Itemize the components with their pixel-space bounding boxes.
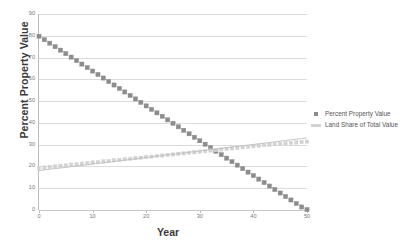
y-axis-tick-label: 70 bbox=[29, 55, 35, 61]
y-axis-tick-label: 20 bbox=[29, 164, 35, 170]
y-axis-tick-label: 50 bbox=[29, 98, 35, 104]
y-axis-tick-label: 60 bbox=[29, 77, 35, 83]
chart-figure: Percent Property Value Year 010203040506… bbox=[0, 0, 415, 246]
chart-legend: Percent Property ValueLand Share of Tota… bbox=[311, 110, 415, 132]
x-axis-tick-mark bbox=[93, 210, 94, 213]
x-axis-title: Year bbox=[30, 226, 306, 238]
legend-item[interactable]: Percent Property Value bbox=[311, 110, 415, 118]
y-axis-tick-label: 30 bbox=[29, 142, 35, 148]
x-axis-tick-mark bbox=[253, 210, 254, 213]
gridline bbox=[39, 210, 307, 211]
square-marker-icon bbox=[311, 110, 321, 118]
x-axis-tick-mark bbox=[39, 210, 40, 213]
legend-item[interactable]: Land Share of Total Value bbox=[311, 121, 415, 129]
x-axis-tick-mark bbox=[146, 210, 147, 213]
series-1 bbox=[37, 140, 308, 170]
x-axis-tick-label: 30 bbox=[197, 214, 203, 220]
y-axis-tick-label: 90 bbox=[29, 11, 35, 17]
legend-label: Percent Property Value bbox=[325, 111, 391, 117]
line-marker-icon bbox=[311, 121, 321, 129]
y-axis-tick-label: 0 bbox=[32, 207, 35, 213]
series-0 bbox=[37, 34, 309, 212]
y-axis-tick-label: 40 bbox=[29, 120, 35, 126]
y-axis-tick-label: 10 bbox=[29, 185, 35, 191]
data-series-layer bbox=[39, 14, 307, 210]
y-axis-tick-label: 80 bbox=[29, 33, 35, 39]
x-axis-tick-label: 10 bbox=[89, 214, 95, 220]
legend-label: Land Share of Total Value bbox=[325, 122, 398, 128]
plot-area: 0102030405060708090 01020304050 bbox=[38, 14, 306, 210]
x-axis-tick-label: 20 bbox=[143, 214, 149, 220]
x-axis-tick-label: 0 bbox=[37, 214, 40, 220]
series-2 bbox=[39, 138, 307, 171]
x-axis-tick-mark bbox=[200, 210, 201, 213]
x-axis-tick-label: 40 bbox=[250, 214, 256, 220]
x-axis-tick-label: 50 bbox=[304, 214, 310, 220]
